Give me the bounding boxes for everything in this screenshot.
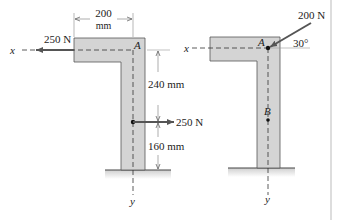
left-point-a-label: A bbox=[133, 39, 141, 51]
left-ground-shading bbox=[105, 170, 171, 179]
right-point-b-label: B bbox=[264, 105, 271, 117]
right-l-member bbox=[210, 37, 280, 168]
right-y-axis-label: y bbox=[264, 193, 270, 205]
left-mid-force-label: 250 N bbox=[176, 116, 203, 128]
left-top-force-label: 250 N bbox=[44, 33, 71, 45]
left-y-axis-label: y bbox=[129, 195, 135, 207]
right-figure: x y A 200 N 30° B bbox=[183, 9, 325, 205]
left-l-member bbox=[74, 38, 145, 170]
left-x-axis-label: x bbox=[9, 44, 15, 56]
right-point-a-label: A bbox=[257, 36, 265, 48]
right-force-label: 200 N bbox=[298, 9, 325, 21]
left-figure: x y A 200 mm 250 N 240 mm 160 mm 250 N bbox=[9, 7, 203, 207]
right-ground-shading bbox=[228, 168, 295, 177]
left-upper-dim-label: 240 mm bbox=[148, 78, 185, 90]
right-point-a bbox=[266, 46, 270, 50]
left-lower-dim-label: 160 mm bbox=[148, 140, 185, 152]
left-width-dim-value: 200 bbox=[95, 7, 112, 19]
right-point-b bbox=[266, 118, 270, 122]
right-angle-label: 30° bbox=[293, 37, 308, 49]
left-width-dim-unit: mm bbox=[96, 20, 112, 31]
diagram-canvas: x y A 200 mm 250 N 240 mm 160 mm 250 N bbox=[0, 0, 337, 220]
right-x-axis-label: x bbox=[183, 42, 189, 54]
